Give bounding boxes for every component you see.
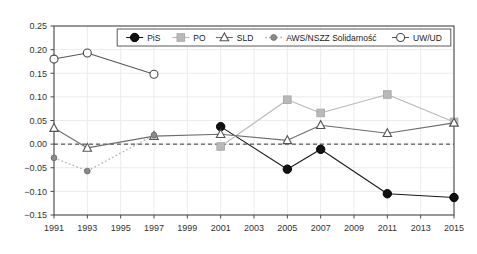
legend-label: SLD <box>237 33 254 43</box>
data-point-marker <box>50 123 58 131</box>
line-chart: 0.250.200.150.100.050.00−0.05−0.10−0.151… <box>0 0 477 254</box>
x-tick-label: 1993 <box>77 223 97 233</box>
y-tick-label: 0.10 <box>29 92 47 102</box>
data-point-marker <box>284 96 292 104</box>
x-tick-label: 1997 <box>144 223 164 233</box>
series-line <box>54 53 154 74</box>
x-tick-label: 1999 <box>177 223 197 233</box>
x-tick-label: 2015 <box>444 223 464 233</box>
y-tick-label: 0.20 <box>29 45 47 55</box>
data-point-marker <box>177 34 185 42</box>
data-point-marker <box>217 143 225 151</box>
series-uw-ud <box>50 49 158 78</box>
data-point-marker <box>51 155 57 161</box>
y-tick-label: 0.25 <box>29 21 47 31</box>
legend-item-uw-ud[interactable]: UW/UD <box>392 33 442 43</box>
x-tick-label: 2011 <box>378 223 397 233</box>
x-tick-label: 1995 <box>111 223 131 233</box>
x-tick-label: 2013 <box>411 223 431 233</box>
legend: PiSPOSLDAWS/NSZZ SolidarnośćUW/UD <box>117 29 451 46</box>
x-tick-label: 2001 <box>211 223 231 233</box>
data-point-marker <box>271 35 277 41</box>
x-tick-label: 2009 <box>344 223 364 233</box>
data-point-marker <box>131 33 139 41</box>
x-tick-label: 2005 <box>277 223 297 233</box>
y-tick-label: −0.05 <box>24 163 47 173</box>
y-tick-label: 0.00 <box>29 139 47 149</box>
legend-label: UW/UD <box>413 33 442 43</box>
data-point-marker <box>317 109 325 117</box>
data-point-marker <box>84 168 90 174</box>
data-point-marker <box>316 121 324 129</box>
legend-label: PO <box>193 33 206 43</box>
series-pis <box>216 122 458 201</box>
data-point-marker <box>316 145 324 153</box>
chart-container: 0.250.200.150.100.050.00−0.05−0.10−0.151… <box>0 0 477 254</box>
y-tick-label: 0.15 <box>29 69 47 79</box>
data-point-marker <box>216 130 224 138</box>
data-point-marker <box>151 132 157 138</box>
series-line <box>54 135 154 171</box>
y-tick-label: −0.10 <box>24 187 47 197</box>
data-point-marker <box>283 165 291 173</box>
data-point-marker <box>83 49 91 57</box>
data-point-marker <box>150 70 158 78</box>
y-tick-label: −0.15 <box>24 210 47 220</box>
legend-label: PiS <box>147 33 161 43</box>
x-tick-label: 2007 <box>311 223 331 233</box>
legend-label: AWS/NSZZ Solidarność <box>286 33 377 43</box>
data-point-marker <box>450 193 458 201</box>
data-point-marker <box>383 190 391 198</box>
x-tick-label: 1991 <box>44 223 64 233</box>
data-point-marker <box>50 55 58 63</box>
y-tick-label: 0.05 <box>29 116 47 126</box>
data-point-marker <box>397 34 405 42</box>
x-tick-label: 2003 <box>244 223 264 233</box>
data-point-marker <box>384 91 392 99</box>
